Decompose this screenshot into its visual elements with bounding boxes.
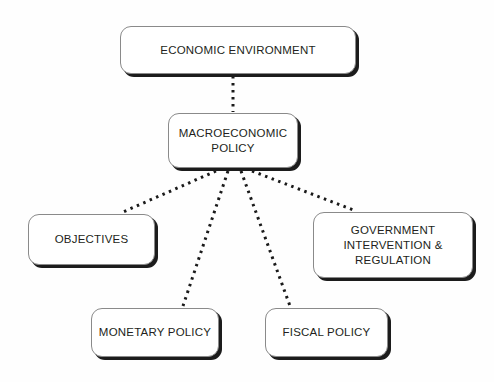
node-label-objectives: OBJECTIVES xyxy=(49,232,135,247)
node-monetary-policy[interactable]: MONETARY POLICY xyxy=(91,308,219,357)
connector-macro-to-government xyxy=(252,171,356,211)
node-label-fiscal-policy: FISCAL POLICY xyxy=(277,325,377,340)
node-government-intervention[interactable]: GOVERNMENT INTERVENTION & REGULATION xyxy=(313,212,473,278)
node-economic-environment[interactable]: ECONOMIC ENVIRONMENT xyxy=(120,26,356,74)
connector-macro-to-objectives xyxy=(123,171,216,212)
node-macroeconomic-policy[interactable]: MACROECONOMIC POLICY xyxy=(168,113,298,168)
node-label-economic-environment: ECONOMIC ENVIRONMENT xyxy=(154,43,321,58)
node-label-macroeconomic-policy: MACROECONOMIC POLICY xyxy=(173,126,294,156)
connector-macro-to-fiscal xyxy=(241,171,290,306)
node-fiscal-policy[interactable]: FISCAL POLICY xyxy=(265,308,388,357)
node-label-monetary-policy: MONETARY POLICY xyxy=(93,325,217,340)
connector-macro-to-monetary xyxy=(183,171,228,306)
node-label-government-intervention: GOVERNMENT INTERVENTION & REGULATION xyxy=(337,223,448,268)
diagram-canvas: ECONOMIC ENVIRONMENT MACROECONOMIC POLIC… xyxy=(0,0,494,382)
node-objectives[interactable]: OBJECTIVES xyxy=(28,214,155,265)
